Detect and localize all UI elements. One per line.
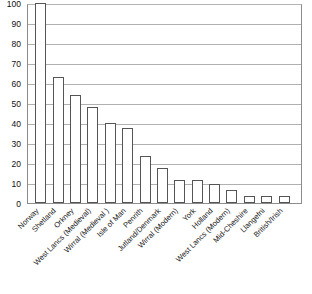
bar[interactable]	[35, 3, 46, 203]
bar-slot	[241, 5, 258, 203]
y-tick-label: 100	[7, 0, 21, 8]
bar[interactable]	[87, 107, 98, 203]
x-axis: NorwayShetlandOrkneyWest Lancs (Medieval…	[27, 205, 302, 294]
bar[interactable]	[53, 77, 64, 203]
bar-slot	[171, 5, 188, 203]
y-tick-label: 0	[16, 199, 21, 208]
y-tick-label: 20	[12, 159, 21, 168]
bar-slot	[84, 5, 101, 203]
y-tick-label: 90	[12, 20, 21, 29]
bar-slot	[49, 5, 66, 203]
bar-slot	[223, 5, 240, 203]
y-tick-label: 30	[12, 139, 21, 148]
bar-slot	[102, 5, 119, 203]
y-tick-label: 80	[12, 40, 21, 49]
bar-chart: 0102030405060708090100 NorwayShetlandOrk…	[0, 0, 312, 294]
y-tick-label: 10	[12, 179, 21, 188]
bar-slot	[32, 5, 49, 203]
y-tick-label: 60	[12, 80, 21, 89]
x-label-slot: British/Irish	[271, 205, 288, 294]
bar-slot	[154, 5, 171, 203]
y-axis: 0102030405060708090100	[0, 0, 24, 209]
y-tick-label: 40	[12, 119, 21, 128]
bar-slot	[67, 5, 84, 203]
bar-slot	[275, 5, 292, 203]
y-tick-label: 50	[12, 100, 21, 109]
y-tick-label: 70	[12, 60, 21, 69]
